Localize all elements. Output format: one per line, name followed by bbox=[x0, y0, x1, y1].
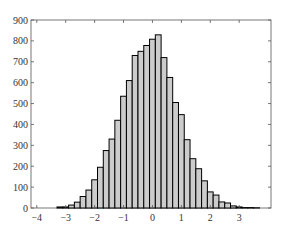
x-tick-label: −3 bbox=[60, 212, 71, 223]
histogram-bar bbox=[184, 140, 190, 208]
y-tick-label: 100 bbox=[13, 182, 28, 193]
x-tick-label: −4 bbox=[31, 212, 42, 223]
histogram-chart: 0100200300400500600700800900 −4−3−2−1012… bbox=[0, 0, 282, 233]
histogram-bar bbox=[57, 207, 63, 208]
histogram-bar bbox=[190, 159, 196, 208]
y-tick-label: 700 bbox=[13, 56, 28, 67]
histogram-bar bbox=[115, 120, 121, 208]
histogram-bar bbox=[161, 58, 167, 208]
x-tick-label: 3 bbox=[237, 212, 242, 223]
histogram-bar bbox=[150, 39, 156, 208]
y-tick-label: 500 bbox=[13, 98, 28, 109]
x-tick-label: −1 bbox=[118, 212, 129, 223]
histogram-bar bbox=[167, 77, 173, 208]
y-tick-label: 0 bbox=[23, 203, 28, 214]
histogram-bar bbox=[126, 81, 132, 208]
y-tick-label: 400 bbox=[13, 119, 28, 130]
histogram-bar bbox=[98, 167, 104, 208]
histogram-bar bbox=[92, 180, 98, 208]
histogram-bar bbox=[109, 139, 115, 208]
histogram-bar bbox=[144, 45, 150, 208]
histogram-bar bbox=[225, 203, 231, 208]
histogram-bar bbox=[74, 202, 80, 208]
histogram-bar bbox=[202, 181, 208, 208]
histogram-bar bbox=[231, 206, 237, 208]
histogram-bar bbox=[213, 195, 219, 208]
y-tick-label: 800 bbox=[13, 35, 28, 46]
x-tick-label: 0 bbox=[150, 212, 155, 223]
x-tick-label: 1 bbox=[179, 212, 184, 223]
histogram-bar bbox=[219, 202, 225, 208]
histogram-bar bbox=[121, 96, 127, 208]
y-tick-label: 600 bbox=[13, 77, 28, 88]
x-tick-label: 2 bbox=[208, 212, 213, 223]
histogram-bar bbox=[196, 169, 202, 208]
histogram-bar bbox=[178, 115, 184, 208]
histogram-bar bbox=[86, 190, 92, 208]
histogram-bar bbox=[173, 103, 179, 208]
histogram-bar bbox=[103, 151, 109, 208]
x-tick-label: −2 bbox=[89, 212, 100, 223]
y-tick-label: 900 bbox=[13, 15, 28, 26]
histogram-bar bbox=[80, 197, 86, 208]
histogram-bar bbox=[69, 205, 75, 208]
histogram-bar bbox=[138, 51, 144, 208]
histogram-bar bbox=[155, 35, 161, 208]
histogram-bar bbox=[132, 56, 138, 208]
y-tick-label: 200 bbox=[13, 161, 28, 172]
y-tick-label: 300 bbox=[13, 140, 28, 151]
